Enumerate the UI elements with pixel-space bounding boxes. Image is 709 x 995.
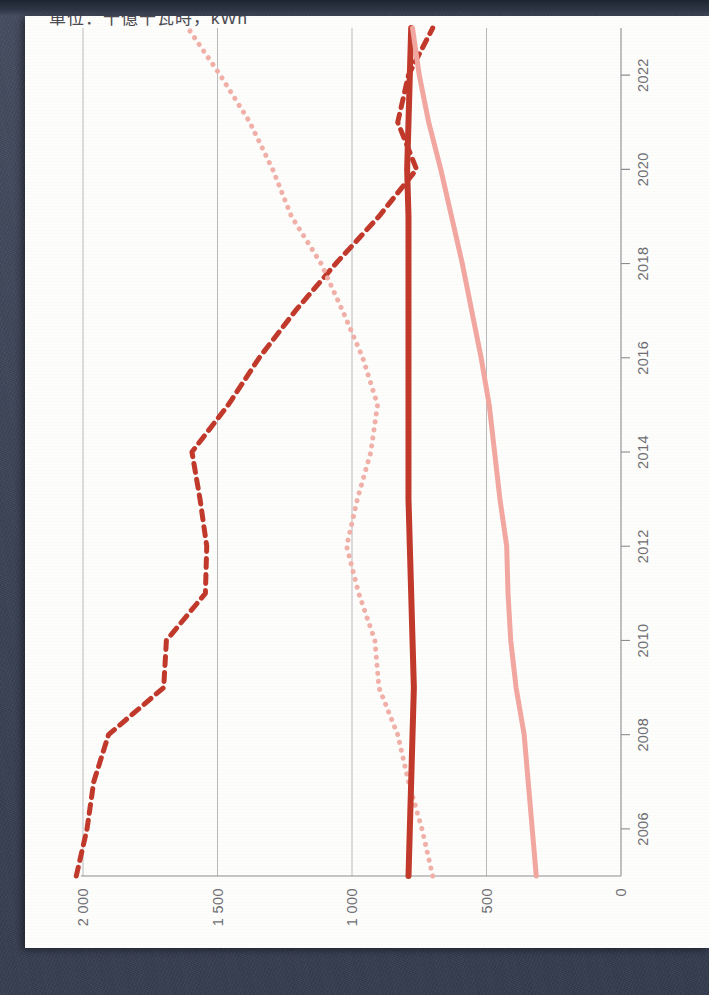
data-series-group — [76, 28, 536, 876]
page-top-shadow — [0, 0, 709, 16]
x-tick-label-2010: 2010 — [635, 624, 651, 658]
series-line-series-solid-light — [413, 28, 537, 876]
x-tick-label-2014: 2014 — [635, 435, 651, 469]
x-tick-label-2018: 2018 — [635, 247, 651, 281]
y-tick-label-2000: 2 000 — [75, 888, 91, 926]
series-line-series-solid-dark — [407, 28, 414, 876]
y-tick-label-1500: 1 500 — [210, 888, 226, 926]
chart-stage: 05001 0001 5002 000 20062008201020122014… — [25, 16, 709, 948]
x-tick-label-2006: 2006 — [635, 812, 651, 846]
y-tick-labels-group: 05001 0001 5002 000 — [75, 888, 629, 926]
y-tick-label-1000: 1 000 — [344, 888, 360, 926]
y-tick-label-500: 500 — [479, 888, 495, 913]
x-tick-label-2016: 2016 — [635, 341, 651, 375]
line-chart: 05001 0001 5002 000 20062008201020122014… — [25, 16, 709, 948]
y-tick-label-0: 0 — [613, 888, 629, 896]
chart-unit-title: 單位：十億千瓦時，kWh — [49, 16, 248, 28]
x-tick-label-2022: 2022 — [635, 58, 651, 92]
x-tick-label-2020: 2020 — [635, 152, 651, 186]
x-axis-group — [81, 75, 630, 876]
x-tick-label-2012: 2012 — [635, 529, 651, 563]
gridlines-group — [83, 28, 621, 876]
x-tick-label-2008: 2008 — [635, 718, 651, 752]
paper-page: 05001 0001 5002 000 20062008201020122014… — [25, 16, 709, 948]
series-line-series-dotted-light — [188, 28, 433, 876]
series-line-series-dashed-dark — [76, 28, 432, 876]
x-tick-labels-group: 200620082010201220142016201820202022 — [635, 58, 651, 846]
